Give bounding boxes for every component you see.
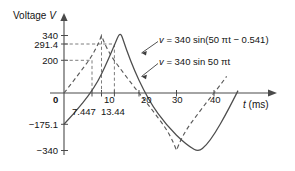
equation-shifted-body: = 340 sin(50 πt − 0.541) bbox=[166, 34, 268, 45]
x-axis-arrowhead bbox=[268, 89, 277, 96]
x-axis-title: t (ms) bbox=[243, 100, 269, 110]
leader-line-dashed bbox=[142, 64, 159, 77]
y-tick-label-neg-175-1: −175.1 bbox=[4, 120, 58, 130]
y-tick-label-200: 200 bbox=[12, 56, 58, 66]
y-axis-title-variable: V bbox=[49, 10, 56, 21]
x-tick-label-20: 20 bbox=[141, 95, 152, 105]
y-axis-title-text: Voltage bbox=[13, 10, 46, 21]
solid-curve-sin-shifted bbox=[64, 34, 238, 150]
x-marker-label-13-44: 13.44 bbox=[101, 107, 125, 117]
x-tick-label-40: 40 bbox=[210, 95, 221, 105]
x-marker-label-7-447: 7.447 bbox=[72, 107, 96, 117]
y-axis-title: Voltage V bbox=[13, 11, 56, 21]
equation-plain-body: = 340 sin 50 πt bbox=[166, 56, 230, 67]
guide-lines-group bbox=[64, 36, 114, 94]
voltage-waveform-chart: Voltage V 340 291.4 200 −175.1 −340 0 10… bbox=[0, 0, 295, 171]
equation-label-shifted: v = 340 sin(50 πt − 0.541) bbox=[159, 35, 269, 45]
equation-label-plain: v = 340 sin 50 πt bbox=[159, 57, 230, 67]
y-tick-label-neg-340: −340 bbox=[8, 146, 58, 156]
x-tick-label-30: 30 bbox=[172, 95, 183, 105]
y-tick-label-291-4: 291.4 bbox=[12, 40, 58, 50]
x-tick-label-0: 0 bbox=[53, 95, 58, 105]
leader-lines-group bbox=[142, 42, 159, 80]
x-axis-title-unit: (ms) bbox=[249, 99, 269, 110]
x-tick-label-10: 10 bbox=[104, 95, 115, 105]
y-axis-arrowhead bbox=[60, 13, 67, 21]
leader-line-solid bbox=[142, 42, 159, 54]
